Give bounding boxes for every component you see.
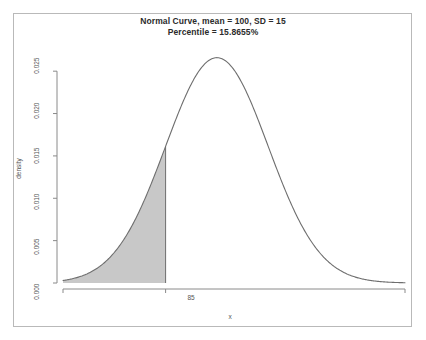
normal-density-curve <box>63 58 405 283</box>
y-tick-label: 0.010 <box>33 194 40 228</box>
y-axis-label: density <box>15 158 22 179</box>
y-tick-label: 0.000 <box>33 284 40 318</box>
y-tick-label: 0.015 <box>33 148 40 182</box>
y-axis <box>53 71 57 283</box>
chart-svg <box>0 0 426 340</box>
x-tick-label: 85 <box>171 294 211 301</box>
y-tick-label: 0.020 <box>33 103 40 137</box>
screenshot-root: Normal Curve, mean = 100, SD = 15 Percen… <box>0 0 426 340</box>
chart-plot-area: 0.025 0.020 0.015 0.010 0.005 0.000 dens… <box>0 0 426 340</box>
x-axis-label: x <box>210 313 250 320</box>
y-tick-label: 0.005 <box>33 239 40 273</box>
y-tick-label: 0.025 <box>33 58 40 92</box>
x-axis <box>63 289 405 293</box>
shaded-tail-region <box>63 146 166 283</box>
